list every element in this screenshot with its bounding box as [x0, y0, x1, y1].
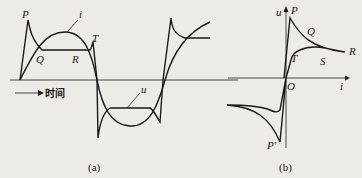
label-Q: Q — [36, 53, 44, 65]
label-P: P — [21, 8, 29, 20]
label-S: S — [320, 55, 326, 67]
label-R: R — [71, 53, 79, 65]
current-curve — [20, 22, 210, 126]
caption-a: (a) — [88, 161, 101, 174]
panel-b: u P Q R T S O i P' (b) — [227, 4, 356, 174]
lower-loop-curve — [227, 78, 286, 142]
label-i: i — [79, 8, 82, 20]
time-label: 时间 — [45, 87, 65, 99]
label-i-axis: i — [340, 80, 343, 92]
panel-a: 时间 P i T Q R u (a) — [10, 8, 238, 174]
label-P-prime: P' — [266, 139, 277, 151]
label-u: u — [141, 83, 147, 95]
label-O: O — [287, 80, 295, 92]
caption-b: (b) — [279, 161, 292, 174]
diagram-canvas: 时间 P i T Q R u (a) u P Q R T S O i P' (b… — [0, 0, 362, 178]
label-R: R — [348, 45, 356, 57]
i-axis-arrow-icon — [345, 76, 350, 81]
arrow-head-icon — [38, 90, 44, 96]
label-u-axis: u — [276, 6, 282, 18]
i-leader — [67, 20, 78, 32]
label-Q: Q — [307, 25, 315, 37]
label-T: T — [291, 52, 298, 64]
u-leader — [127, 93, 140, 108]
label-T: T — [92, 32, 99, 44]
u-axis-arrow-icon — [284, 6, 289, 12]
label-P: P — [290, 4, 298, 16]
